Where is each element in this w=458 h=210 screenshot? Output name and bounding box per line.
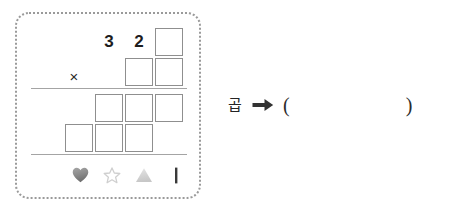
star-icon bbox=[99, 162, 125, 188]
partial-product-2-box-2[interactable] bbox=[95, 124, 123, 152]
partial-product-1-box-2[interactable] bbox=[125, 94, 153, 122]
partial-product-1-box-1[interactable] bbox=[95, 94, 123, 122]
triangle-icon bbox=[131, 162, 157, 188]
answer-close-paren: ) bbox=[406, 95, 413, 115]
multiplier-answer-box-tens[interactable] bbox=[125, 58, 153, 86]
symbol-legend-row bbox=[17, 162, 203, 196]
answer-blank-space[interactable] bbox=[290, 105, 406, 106]
worksheet-panel: 3 2 × bbox=[15, 12, 201, 199]
multiplication-operator: × bbox=[63, 66, 85, 88]
partial-product-1-box-3[interactable] bbox=[155, 94, 183, 122]
multiplicand-digit-tens: 2 bbox=[125, 28, 153, 56]
multiplicand-digit-hundreds: 3 bbox=[95, 28, 123, 56]
partial-product-2-box-3[interactable] bbox=[125, 124, 153, 152]
heart-icon bbox=[67, 162, 93, 188]
lower-rule-line bbox=[31, 154, 187, 155]
multiplier-answer-box-units[interactable] bbox=[155, 58, 183, 86]
vertical-multiplication-problem: 3 2 × bbox=[17, 14, 203, 201]
right-arrow-icon bbox=[252, 98, 274, 112]
multiplicand-answer-box-units[interactable] bbox=[155, 28, 183, 56]
vertical-bar-icon bbox=[163, 162, 189, 188]
upper-rule-line bbox=[31, 88, 187, 89]
answer-open-paren: ( bbox=[283, 95, 290, 115]
answer-label: 곱 bbox=[228, 98, 242, 113]
answer-row: 곱 ( ) bbox=[228, 90, 412, 120]
partial-product-2-box-1[interactable] bbox=[65, 124, 93, 152]
